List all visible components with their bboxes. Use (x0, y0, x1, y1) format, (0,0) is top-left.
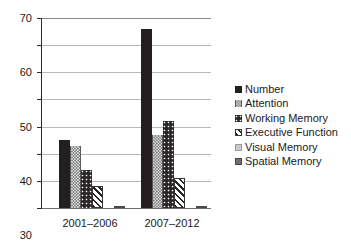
bar-attention (70, 146, 81, 208)
legend-swatch-icon (235, 129, 242, 136)
plot-area: 010203040506070 (41, 18, 211, 208)
legend-swatch-icon (235, 86, 242, 93)
bar-chart: 010203040506070 2001–2006 2007–2012 Numb… (0, 0, 351, 250)
legend-swatch-icon (235, 100, 242, 107)
legend-item-label: Executive Function (245, 127, 338, 138)
bar-spatial-memory (114, 206, 125, 208)
bar-spatial-memory (196, 206, 207, 208)
legend-item-spatial-memory[interactable]: Spatial Memory (235, 155, 351, 170)
bar-working-memory (81, 170, 92, 208)
legend-swatch-icon (235, 158, 242, 165)
legend-item-label: Working Memory (245, 113, 328, 124)
x-axis-label-group-0: 2001–2006 (51, 218, 129, 229)
y-axis-tick-label: 60 (20, 67, 32, 78)
legend-item-number[interactable]: Number (235, 82, 351, 97)
y-axis-line (41, 18, 42, 209)
legend-item-attention[interactable]: Attention (235, 97, 351, 112)
gridline-0 (41, 208, 211, 209)
y-axis-tick-label: 50 (20, 121, 32, 132)
legend-swatch-icon (235, 115, 242, 122)
y-axis-tick-label: 30 (20, 230, 32, 241)
bar-group (59, 18, 121, 208)
bar-executive-function (92, 186, 103, 208)
chart-legend: NumberAttentionWorking MemoryExecutive F… (235, 82, 351, 169)
y-axis-tick-label: 40 (20, 175, 32, 186)
legend-swatch-icon (235, 144, 242, 151)
bar-executive-function (174, 178, 185, 208)
legend-item-working-memory[interactable]: Working Memory (235, 111, 351, 126)
legend-item-label: Attention (245, 98, 288, 109)
legend-item-label: Visual Memory (245, 142, 318, 153)
legend-item-label: Spatial Memory (245, 156, 321, 167)
legend-item-label: Number (245, 84, 284, 95)
bar-attention (152, 135, 163, 208)
bar-group (141, 18, 203, 208)
legend-item-executive-function[interactable]: Executive Function (235, 126, 351, 141)
y-axis-tick-label: 70 (20, 13, 32, 24)
bar-number (141, 29, 152, 208)
x-axis-label-group-1: 2007–2012 (133, 218, 211, 229)
bar-working-memory (163, 121, 174, 208)
legend-item-visual-memory[interactable]: Visual Memory (235, 140, 351, 155)
bar-number (59, 140, 70, 208)
